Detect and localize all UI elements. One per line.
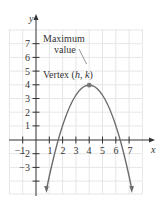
y-tick-label: 6 [25, 52, 30, 63]
parabola-chart: −1 1 2 3 4 5 6 7 7 6 5 4 3 2 1 −2 −3 y x… [0, 0, 163, 204]
y-tick-label: 2 [25, 107, 30, 118]
x-tick-label: 3 [74, 145, 79, 156]
x-axis-label: x [150, 144, 156, 155]
y-axis-arrow-icon [34, 14, 39, 20]
y-tick-label: 5 [25, 66, 30, 77]
x-tick-label: 7 [128, 145, 133, 156]
x-tick-label: 1 [48, 145, 53, 156]
maximum-pointer-line [79, 49, 87, 64]
y-tick-label: 7 [25, 38, 30, 49]
vertex-point [87, 83, 92, 88]
maximum-label: Maximum [43, 33, 85, 44]
x-tick-label: 2 [61, 145, 66, 156]
value-label: value [54, 44, 76, 55]
curve-right-arrow-icon [129, 186, 134, 193]
chart-svg: −1 1 2 3 4 5 6 7 7 6 5 4 3 2 1 −2 −3 y x… [0, 0, 163, 204]
y-axis-label: y [28, 13, 34, 24]
y-tick-labels: 7 6 5 4 3 2 1 −2 −3 [19, 38, 30, 173]
y-tick-label: 1 [25, 120, 30, 131]
x-tick-label: 4 [87, 145, 92, 156]
curve-left-arrow-icon [44, 186, 49, 193]
x-tick-label: 5 [100, 145, 105, 156]
x-tick-label: 6 [114, 145, 119, 156]
y-tick-label: 3 [25, 93, 30, 104]
y-tick-label: −2 [19, 148, 30, 159]
x-tick-labels: −1 1 2 3 4 5 6 7 [15, 145, 133, 156]
y-tick-label: −3 [19, 162, 30, 173]
y-tick-label: 4 [25, 79, 30, 90]
x-axis-arrow-icon [149, 138, 155, 143]
vertex-label: Vertex (h, k) [43, 69, 93, 81]
